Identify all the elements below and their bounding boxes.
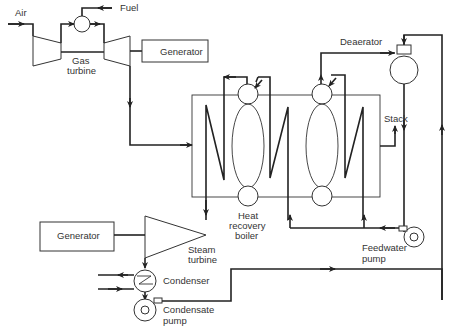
- generator-bottom-label: Generator: [57, 230, 100, 241]
- condenser-label: Condenser: [163, 275, 209, 286]
- feedwater-pump-label-2: pump: [362, 253, 386, 264]
- air-inlet: Air: [8, 7, 33, 36]
- deaerator-tank: [390, 56, 418, 84]
- combustor: [74, 16, 90, 32]
- condenser: [134, 270, 156, 292]
- mud-drum-2: [312, 186, 332, 206]
- deaerator-head: [397, 45, 411, 54]
- stack-label: Stack: [384, 113, 408, 124]
- hrb-label-3: boiler: [235, 230, 258, 241]
- gas-turbine-label-2: turbine: [67, 65, 96, 76]
- steam-turbine-label-2: turbine: [188, 254, 217, 265]
- fuel-label: Fuel: [120, 2, 138, 13]
- condensate-pump-label-2: pump: [163, 315, 187, 326]
- combined-cycle-diagram: Air Gas turbine Fuel Generator Deaerato: [0, 0, 453, 335]
- mud-drum-1: [238, 186, 258, 206]
- gas-turbine: [104, 36, 130, 66]
- air-label: Air: [15, 7, 27, 18]
- compressor: [33, 36, 61, 66]
- economizer-coil: [331, 75, 363, 220]
- condensate-pump-label-1: Condensate: [163, 304, 214, 315]
- steam-drum-2: [312, 84, 332, 104]
- heat-recovery-boiler: [192, 95, 380, 197]
- generator-top-label: Generator: [160, 46, 203, 57]
- feedwater-pump-label-1: Feedwater: [362, 242, 407, 253]
- deaerator-label: Deaerator: [340, 36, 382, 47]
